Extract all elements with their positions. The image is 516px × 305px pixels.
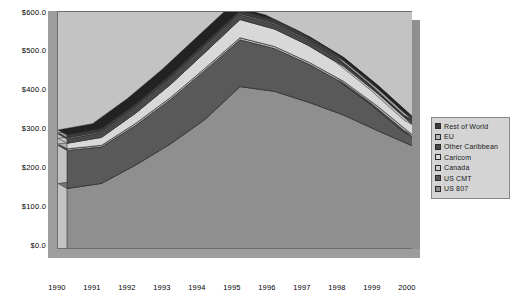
y-tick-label: $200.0 xyxy=(2,163,46,172)
legend-item[interactable]: US 807 xyxy=(435,183,507,193)
x-tick-label: 1994 xyxy=(177,283,217,292)
chart-legend: Rest of World EU Other Caribbean Caricom… xyxy=(431,117,510,199)
x-tick-label: 1997 xyxy=(282,283,322,292)
y-tick-label: $400.0 xyxy=(2,85,46,94)
x-axis: 1990 1991 1992 1993 1994 1995 1996 1997 … xyxy=(0,283,460,297)
legend-swatch-icon xyxy=(435,144,441,150)
legend-item[interactable]: Canada xyxy=(435,163,507,173)
legend-swatch-icon xyxy=(435,134,441,140)
legend-item[interactable]: Caricom xyxy=(435,152,507,162)
legend-item-label: Other Caribbean xyxy=(444,143,498,150)
legend-swatch-icon xyxy=(435,186,441,192)
legend-item[interactable]: EU xyxy=(435,131,507,141)
legend-swatch-icon xyxy=(435,123,441,129)
plot-area xyxy=(48,11,420,258)
area-series-group xyxy=(58,12,412,249)
legend-item-label: Canada xyxy=(444,164,469,171)
x-tick-label: 1998 xyxy=(317,283,357,292)
y-axis: $600.0 $500.0 $400.0 $300.0 $200.0 $100.… xyxy=(0,0,46,260)
chart-floor xyxy=(48,249,420,258)
legend-item-label: US CMT xyxy=(444,175,472,182)
y-tick-label: $300.0 xyxy=(2,124,46,133)
legend-swatch-icon xyxy=(435,175,441,181)
y-tick-label: $500.0 xyxy=(2,46,46,55)
x-tick-label: 1996 xyxy=(247,283,287,292)
x-tick-label: 1995 xyxy=(212,283,252,292)
x-tick-label: 2000 xyxy=(387,283,427,292)
x-tick-label: 1990 xyxy=(37,283,77,292)
y-tick-label: $0.0 xyxy=(2,241,46,250)
plot-face xyxy=(57,11,412,249)
x-tick-label: 1999 xyxy=(352,283,392,292)
legend-item-label: US 807 xyxy=(444,185,468,192)
legend-swatch-icon xyxy=(435,165,441,171)
legend-item[interactable]: US CMT xyxy=(435,173,507,183)
legend-item-label: Caricom xyxy=(444,154,471,161)
chart-right-wall xyxy=(411,20,420,258)
legend-swatch-icon xyxy=(435,154,441,160)
x-tick-label: 1993 xyxy=(142,283,182,292)
legend-item-label: EU xyxy=(444,133,454,140)
y-tick-label: $600.0 xyxy=(2,8,46,17)
stacked-area-chart: $600.0 $500.0 $400.0 $300.0 $200.0 $100.… xyxy=(0,0,516,305)
x-tick-label: 1992 xyxy=(107,283,147,292)
y-tick-label: $100.0 xyxy=(2,202,46,211)
legend-item[interactable]: Rest of World xyxy=(435,121,507,131)
x-tick-label: 1991 xyxy=(72,283,112,292)
legend-item-label: Rest of World xyxy=(444,123,488,130)
legend-item[interactable]: Other Caribbean xyxy=(435,142,507,152)
